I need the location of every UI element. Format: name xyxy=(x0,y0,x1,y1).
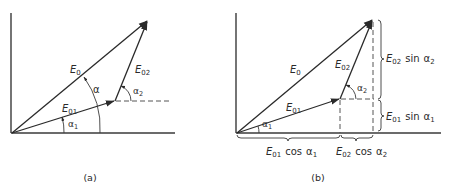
vector-e0 xyxy=(237,20,372,133)
label-alpha2: α2 xyxy=(357,83,367,95)
alpha1-arc xyxy=(258,126,259,133)
brace-e01-sin xyxy=(378,100,384,131)
alpha1-arc xyxy=(62,117,64,133)
label-e01: E01 xyxy=(62,103,77,116)
label-e02-cos-alpha2: E02cosα2 xyxy=(336,146,387,159)
label-e01-cos-alpha1: E01cosα1 xyxy=(266,146,317,159)
alpha2-arc xyxy=(346,85,356,99)
phasor-diagram: E0 E01 E02 α α1 α2 (a) xyxy=(0,0,453,188)
label-alpha1: α1 xyxy=(68,119,78,131)
panel-b: E0 E01 E02 α1 α2 E02sinα2 E01sinα1 E01co… xyxy=(236,13,441,183)
label-e01-sin-alpha1: E01sinα1 xyxy=(386,111,435,124)
caption-b: (b) xyxy=(311,172,324,183)
label-e01: E01 xyxy=(286,102,301,115)
brace-e02-cos xyxy=(341,135,373,141)
brace-e01-cos xyxy=(237,135,340,141)
label-e02-sin-alpha2: E02sinα2 xyxy=(386,53,435,66)
label-alpha: α xyxy=(93,84,100,95)
brace-e02-sin xyxy=(378,20,384,99)
label-e0: E0 xyxy=(290,64,301,77)
label-e02: E02 xyxy=(135,64,150,77)
label-alpha2: α2 xyxy=(133,86,143,98)
alpha2-arc xyxy=(121,86,131,101)
panel-a: E0 E01 E02 α α1 α2 (a) xyxy=(11,13,175,183)
label-e02: E02 xyxy=(335,59,350,72)
label-alpha1: α1 xyxy=(262,119,272,131)
vector-e0 xyxy=(12,21,147,133)
caption-a: (a) xyxy=(83,172,96,183)
label-e0: E0 xyxy=(70,64,81,77)
